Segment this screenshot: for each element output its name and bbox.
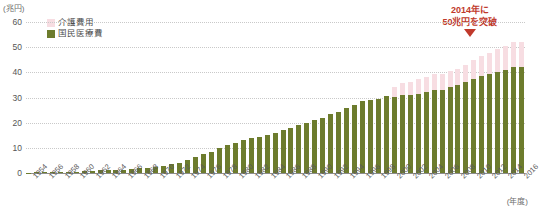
bar-segment-medical: [352, 105, 357, 173]
bar-segment-medical: [487, 74, 492, 173]
bar-1980: [233, 22, 238, 173]
bar-segment-care: [471, 60, 476, 79]
x-axis-tick-labels: 1954195619581960196219641966196819701972…: [26, 174, 525, 208]
bar-1960: [74, 22, 79, 173]
plot-area: [26, 22, 525, 173]
bar-2006: [440, 22, 445, 173]
bar-1976: [201, 22, 206, 173]
bar-segment-care: [495, 49, 500, 72]
bar-1961: [82, 22, 87, 173]
bar-1974: [185, 22, 190, 173]
bar-segment-care: [408, 82, 413, 95]
y-tick-10: 10: [0, 144, 22, 152]
bar-1990: [312, 22, 317, 173]
bar-segment-medical: [511, 67, 516, 173]
bar-1984: [265, 22, 270, 173]
y-tick-30: 30: [0, 94, 22, 102]
bar-1970: [153, 22, 158, 173]
y-tick-50: 50: [0, 43, 22, 51]
bar-segment-care: [503, 46, 508, 70]
bar-1988: [296, 22, 301, 173]
bar-1957: [50, 22, 55, 173]
bar-segment-care: [511, 42, 516, 67]
bar-1979: [225, 22, 230, 173]
bar-2000: [392, 22, 397, 173]
bar-segment-care: [416, 79, 421, 93]
bar-series-container: [26, 22, 525, 173]
bar-segment-medical: [384, 96, 389, 173]
bar-1969: [145, 22, 150, 173]
bar-segment-medical: [519, 67, 524, 173]
bar-2004: [424, 22, 429, 173]
bar-1983: [257, 22, 262, 173]
bar-segment-care: [392, 87, 397, 96]
bar-segment-medical: [463, 82, 468, 173]
bar-segment-medical: [392, 97, 397, 174]
bar-1987: [288, 22, 293, 173]
bar-2002: [408, 22, 413, 173]
bar-1959: [66, 22, 71, 173]
y-tick-20: 20: [0, 119, 22, 127]
bar-segment-medical: [503, 70, 508, 173]
bar-1982: [249, 22, 254, 173]
bar-segment-medical: [408, 95, 413, 173]
bar-1981: [241, 22, 246, 173]
bar-2014: [503, 22, 508, 173]
bar-1999: [384, 22, 389, 173]
y-axis-unit-label: (兆円): [3, 2, 24, 13]
bar-1962: [90, 22, 95, 173]
bar-2010: [471, 22, 476, 173]
bar-1997: [368, 22, 373, 173]
bar-1991: [320, 22, 325, 173]
bar-segment-care: [440, 74, 445, 90]
bar-1992: [328, 22, 333, 173]
bar-segment-medical: [432, 90, 437, 173]
bar-1989: [304, 22, 309, 173]
bar-1994: [344, 22, 349, 173]
bar-1977: [209, 22, 214, 173]
bar-segment-care: [463, 65, 468, 83]
bar-2003: [416, 22, 421, 173]
bar-2005: [432, 22, 437, 173]
bar-1972: [169, 22, 174, 173]
y-tick-40: 40: [0, 68, 22, 76]
bar-segment-medical: [400, 95, 405, 173]
bar-2011: [479, 22, 484, 173]
bar-1963: [98, 22, 103, 173]
bar-segment-care: [519, 42, 524, 67]
bar-1954: [26, 22, 31, 173]
bar-segment-medical: [416, 94, 421, 173]
bar-2016: [519, 22, 524, 173]
bar-segment-care: [487, 53, 492, 74]
bar-segment-care: [448, 71, 453, 87]
bar-1975: [193, 22, 198, 173]
bar-2012: [487, 22, 492, 173]
bar-1958: [58, 22, 63, 173]
bar-segment-medical: [424, 92, 429, 173]
bar-2009: [463, 22, 468, 173]
bar-1986: [281, 22, 286, 173]
y-tick-0: 0: [0, 169, 22, 177]
bar-1995: [352, 22, 357, 173]
bar-1973: [177, 22, 182, 173]
bar-1993: [336, 22, 341, 173]
bar-segment-care: [400, 83, 405, 95]
bar-segment-medical: [440, 90, 445, 173]
bar-segment-care: [432, 74, 437, 90]
bar-segment-medical: [448, 87, 453, 173]
bar-1956: [42, 22, 47, 173]
bar-2008: [455, 22, 460, 173]
bar-1966: [121, 22, 126, 173]
bar-segment-care: [424, 77, 429, 93]
bar-2015: [511, 22, 516, 173]
bar-1964: [106, 22, 111, 173]
bar-1998: [376, 22, 381, 173]
bar-1996: [360, 22, 365, 173]
bar-segment-medical: [455, 85, 460, 173]
bar-1968: [137, 22, 142, 173]
bar-segment-medical: [471, 79, 476, 173]
bar-1985: [273, 22, 278, 173]
bar-1955: [34, 22, 39, 173]
bar-segment-medical: [376, 99, 381, 173]
